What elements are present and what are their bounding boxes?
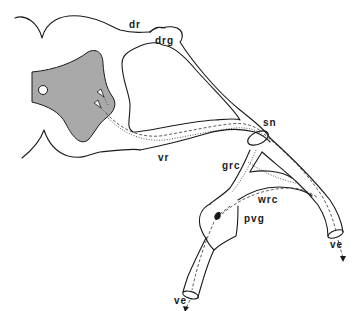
ganglion-fiber bbox=[220, 206, 230, 214]
spinal-nerve-fiber bbox=[264, 134, 336, 232]
label-ventral-root: vr bbox=[158, 153, 169, 163]
label-spinal-nerve: sn bbox=[263, 118, 277, 128]
arrowhead-left bbox=[183, 306, 189, 311]
label-paravertebral-ganglion: pvg bbox=[244, 214, 265, 224]
white-ramus-fiber-dotted bbox=[248, 162, 300, 184]
ventral-root-lower bbox=[140, 129, 270, 150]
label-ventral-efferent-left: ve bbox=[174, 296, 187, 306]
grey-ramus-fiber bbox=[232, 150, 256, 192]
grey-ramus-right bbox=[250, 152, 262, 172]
paravertebral-ganglion bbox=[199, 204, 238, 250]
label-grey-ramus-communicans: grc bbox=[222, 161, 241, 171]
central-canal bbox=[39, 86, 48, 95]
label-white-ramus-communicans: wrc bbox=[258, 195, 278, 205]
diagram-canvas: dr drg vr sn grc wrc pvg ve ve bbox=[0, 0, 361, 311]
spinal-nerve-diagram bbox=[0, 0, 361, 311]
dorsal-root-inner bbox=[122, 43, 240, 132]
ganglion-neuron bbox=[214, 212, 221, 220]
label-dorsal-root: dr bbox=[129, 20, 141, 30]
label-dorsal-root-ganglion: drg bbox=[155, 36, 174, 46]
spinal-nerve-upper bbox=[270, 138, 343, 232]
arrowhead-right bbox=[340, 256, 346, 262]
lower-nerve-left bbox=[183, 238, 206, 292]
label-ventral-efferent-right: ve bbox=[330, 240, 343, 250]
